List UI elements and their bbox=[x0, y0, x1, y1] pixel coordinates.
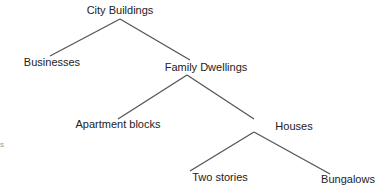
edge-houses-bungalows bbox=[254, 132, 330, 174]
node-city-buildings: City Buildings bbox=[87, 4, 154, 16]
node-two-stories: Two stories bbox=[192, 171, 248, 183]
edge-houses-twostories bbox=[190, 132, 254, 171]
cropped-text-fragment: s bbox=[0, 140, 4, 149]
tree-edges bbox=[0, 0, 385, 194]
node-businesses: Businesses bbox=[24, 56, 80, 68]
node-apartment-blocks: Apartment blocks bbox=[76, 118, 161, 130]
edge-family-apartments bbox=[118, 75, 187, 119]
node-bungalows: Bungalows bbox=[321, 173, 375, 185]
edge-city-businesses bbox=[50, 19, 120, 56]
node-family-dwellings: Family Dwellings bbox=[165, 61, 248, 73]
node-houses: Houses bbox=[275, 120, 312, 132]
edge-family-houses bbox=[187, 75, 254, 119]
edge-city-family bbox=[120, 19, 190, 60]
